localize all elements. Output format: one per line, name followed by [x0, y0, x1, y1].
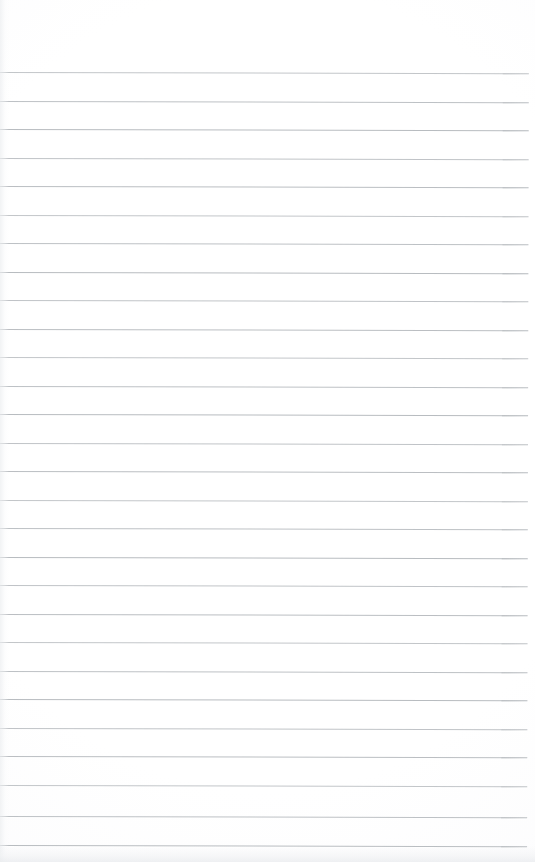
ruled-line	[0, 671, 527, 673]
ruled-line	[0, 699, 527, 701]
ruled-line	[0, 300, 528, 302]
scan-edge-noise-bottom	[0, 846, 535, 862]
ruled-line	[0, 557, 528, 559]
paper-surface	[0, 0, 535, 862]
ruled-line	[0, 386, 528, 388]
ruled-line	[0, 728, 527, 730]
scanned-page	[0, 0, 535, 862]
ruled-line	[0, 329, 528, 331]
ruled-line	[0, 756, 527, 758]
ruled-line	[0, 243, 528, 245]
ruled-line	[0, 585, 528, 587]
ruled-line	[0, 500, 528, 502]
ruled-line	[0, 215, 529, 217]
ruled-line	[0, 642, 528, 644]
ruled-line	[0, 414, 528, 416]
ruled-line	[0, 129, 529, 131]
scan-edge-noise-left	[0, 0, 9, 862]
ruled-line	[0, 614, 528, 616]
ruled-line	[0, 443, 528, 445]
ruled-line	[0, 186, 529, 188]
ruled-line	[0, 816, 527, 818]
ruled-line	[0, 272, 528, 274]
ruled-line	[0, 158, 529, 160]
ruled-line	[0, 528, 528, 530]
ruled-line	[0, 785, 527, 787]
ruled-line	[0, 101, 529, 103]
ruled-line	[0, 357, 528, 359]
top-margin-blank-area	[0, 0, 535, 72]
ruled-line	[0, 72, 529, 74]
ruled-lines-layer	[0, 0, 535, 862]
ruled-line	[0, 845, 527, 847]
ruled-line	[0, 471, 528, 473]
